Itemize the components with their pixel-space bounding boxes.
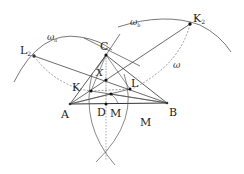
label-m-region: M — [140, 116, 151, 129]
label-k: K — [72, 81, 81, 94]
label-omega-b: ωb — [130, 17, 141, 28]
side-ab — [70, 103, 167, 104]
line-k2-a — [70, 24, 190, 104]
label-k2-sub: 2 — [201, 18, 205, 25]
point-a — [69, 103, 72, 106]
point-c — [104, 53, 107, 56]
label-l2: L2 — [20, 44, 31, 57]
tangent-line-1 — [84, 38, 140, 66]
label-l2-sub: 2 — [27, 50, 31, 57]
label-m-point: M — [110, 107, 121, 120]
geometry-diagram: C A B K L X D M M K2 L2 ωa ωb ω — [0, 0, 244, 174]
line-m-b — [111, 94, 167, 103]
label-k2: K2 — [193, 12, 205, 25]
label-l: L — [131, 77, 139, 90]
label-omega-a: ωa — [47, 32, 57, 43]
dashed-arc-l2-k — [34, 56, 90, 91]
label-b: B — [169, 106, 177, 119]
point-k2 — [188, 22, 191, 25]
point-b — [166, 102, 169, 105]
label-omega-b-sub: b — [137, 22, 140, 28]
point-x — [104, 78, 107, 81]
arrow-to-m — [112, 95, 118, 103]
point-l2 — [32, 54, 35, 57]
label-omega: ω — [173, 60, 181, 70]
label-omega-a-sub: a — [54, 37, 57, 43]
point-m — [109, 92, 112, 95]
label-x: X — [95, 67, 104, 78]
label-a: A — [60, 108, 70, 121]
label-d: D — [97, 106, 106, 119]
label-c: C — [100, 40, 108, 53]
point-k — [90, 90, 93, 93]
